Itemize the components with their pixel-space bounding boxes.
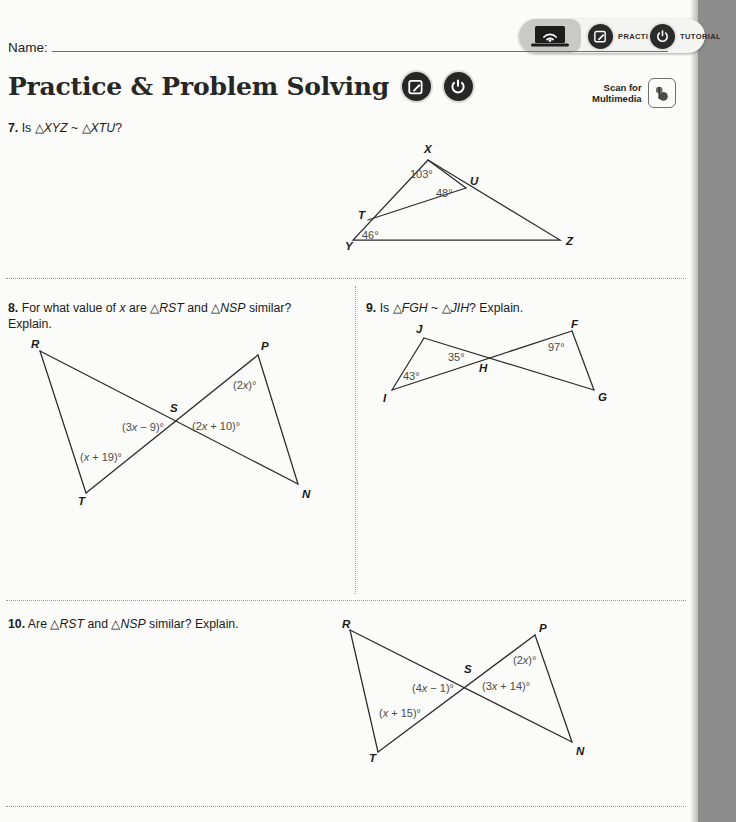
vertex-label-f: F (571, 318, 579, 330)
problem-9-prompt: 9. Is △FGH ~ △JIH? Explain. (366, 300, 666, 316)
vertex-label-y: Y (345, 240, 354, 252)
angle-label-y: 46° (362, 229, 379, 241)
vertex-label-t: T (78, 495, 86, 507)
vertex-label-h: H (479, 362, 488, 374)
page-margin-strip (698, 0, 736, 822)
section-separator-2 (6, 600, 686, 601)
segment-p-n (258, 355, 298, 484)
problem-8-number: 8. (8, 301, 18, 315)
vertex-label-r: R (342, 618, 351, 630)
segment-r-t (40, 351, 86, 493)
problem-7-number: 7. (8, 121, 18, 135)
scan-for-multimedia[interactable]: Scan for Multimedia (592, 78, 676, 108)
tutorial-icon[interactable] (444, 72, 473, 101)
angle-label-x: 103° (410, 168, 433, 180)
section-separator-3 (6, 806, 686, 807)
segment-r-t (350, 630, 378, 752)
vertex-label-s: S (464, 663, 472, 675)
vertex-label-t: T (358, 209, 366, 221)
toolbar-label-tutorial: TUTORIAL (680, 32, 721, 41)
problem-7-text: Is △XYZ ~ △XTU? (22, 121, 122, 135)
segment-f-g (572, 331, 594, 390)
vertex-label-s: S (170, 402, 178, 414)
name-field[interactable]: Name: (8, 40, 668, 55)
qr-scan-icon (648, 78, 676, 108)
angle-label-p: (2x)° (513, 654, 536, 666)
problem-8-text: For what value of x are △RST and △NSP si… (8, 301, 291, 331)
vertex-label-n: N (576, 745, 585, 757)
column-separator (355, 286, 356, 594)
segment-r-n (40, 351, 298, 484)
problem-9-figure: J I F G H 43° 35° 97° (366, 318, 636, 408)
vertex-label-p: P (539, 622, 547, 634)
angle-label-f: 97° (548, 341, 565, 353)
angle-label-s-left: (4x − 1)° (412, 682, 454, 694)
angle-label-u: 48° (436, 187, 453, 199)
name-label: Name: (8, 40, 48, 55)
angle-label-s-left: (3x − 9)° (122, 421, 164, 433)
problem-10-text: Are △RST and △NSP similar? Explain. (28, 617, 239, 631)
vertex-label-i: I (383, 392, 387, 404)
section-separator-1 (6, 278, 686, 279)
vertex-label-t: T (369, 752, 377, 764)
angle-label-s-right: (2x + 10)° (192, 420, 240, 432)
name-write-line[interactable] (52, 51, 668, 52)
segment-x-u (428, 160, 466, 188)
segment-p-t (378, 635, 535, 752)
vertex-label-n: N (302, 488, 311, 500)
problem-9-number: 9. (366, 301, 376, 315)
vertex-label-z: Z (565, 235, 574, 247)
triangle-xyz-outline (353, 160, 560, 240)
scan-label: Scan for Multimedia (592, 82, 642, 105)
problem-8-figure: R P T N S (3x − 9)° (2x + 10)° (x + 19)°… (14, 338, 324, 508)
vertex-label-x: X (423, 143, 433, 155)
vertex-label-p: P (261, 340, 269, 352)
problem-10-prompt: 10. Are △RST and △NSP similar? Explain. (8, 616, 338, 632)
angle-label-t: (x + 15)° (379, 707, 421, 719)
vertex-label-j: J (416, 323, 423, 335)
problem-8-prompt: 8. For what value of x are △RST and △NSP… (8, 300, 338, 332)
vertex-label-u: U (470, 175, 479, 187)
worksheet-page: PRACTICE TUTORIAL Name: Practice & Probl… (0, 0, 736, 822)
angle-label-p: (2x)° (233, 379, 256, 391)
page-margin-gradient (690, 0, 698, 822)
angle-label-i: 43° (403, 370, 420, 382)
problem-7-figure: X Y Z T U 103° 48° 46° (336, 140, 586, 255)
problem-7-prompt: 7. Is △XYZ ~ △XTU? (8, 120, 328, 136)
segment-j-i (392, 338, 424, 390)
angle-label-s-right: (3x + 14)° (482, 680, 530, 692)
problem-9-text: Is △FGH ~ △JIH? Explain. (380, 301, 523, 315)
page-title: Practice & Problem Solving (8, 72, 389, 101)
angle-label-h: 35° (448, 351, 465, 363)
page-header: Practice & Problem Solving (8, 72, 473, 101)
vertex-label-r: R (31, 338, 40, 350)
segment-j-g (424, 338, 594, 390)
angle-label-t: (x + 19)° (80, 451, 122, 463)
vertex-label-g: G (598, 391, 607, 403)
problem-10-number: 10. (8, 617, 25, 631)
problem-10-figure: R P T N S (4x − 1)° (3x + 14)° (x + 15)°… (340, 622, 620, 762)
practice-icon[interactable] (402, 72, 431, 101)
